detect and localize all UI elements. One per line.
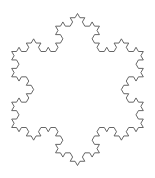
koch-snowflake-outline [12, 14, 144, 166]
koch-snowflake-figure [0, 0, 155, 178]
